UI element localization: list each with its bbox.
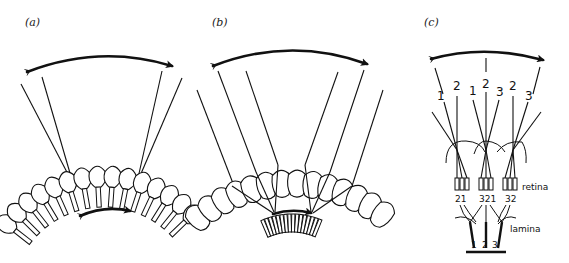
svg-text:3: 3 xyxy=(525,89,533,103)
image-arrow xyxy=(80,209,130,216)
visual-field-arrow xyxy=(213,50,367,66)
panel-a: (a) xyxy=(0,16,206,249)
panel-a-label: (a) xyxy=(25,16,40,29)
retina-label: retina xyxy=(522,182,548,192)
rays xyxy=(21,71,182,180)
svg-text:1: 1 xyxy=(471,240,477,250)
panel-c-label: (c) xyxy=(424,16,439,29)
svg-text:2: 2 xyxy=(482,240,488,250)
ray-numbers: 1 2 1 2 3 2 3 xyxy=(437,77,533,103)
panel-c: (c) 1 2 1 2 3 2 xyxy=(424,16,548,252)
panel-b-label: (b) xyxy=(212,16,228,29)
compound-eye-figure: (a) xyxy=(0,0,569,263)
lamina-numbers: 1 2 3 xyxy=(471,240,498,250)
svg-text:32: 32 xyxy=(505,194,516,204)
svg-text:1: 1 xyxy=(437,89,445,103)
visual-field-arrow xyxy=(431,52,543,60)
rays xyxy=(197,70,383,186)
svg-text:2: 2 xyxy=(509,79,517,93)
panel-b: (b) xyxy=(182,16,398,237)
svg-text:321: 321 xyxy=(479,194,496,204)
svg-text:21: 21 xyxy=(455,194,466,204)
lamina-label: lamina xyxy=(510,224,541,234)
ommatidia-row xyxy=(0,166,206,250)
svg-text:3: 3 xyxy=(492,240,498,250)
svg-text:2: 2 xyxy=(482,77,490,91)
svg-text:2: 2 xyxy=(453,79,461,93)
svg-text:1: 1 xyxy=(469,84,477,98)
visual-field-arrow xyxy=(27,56,172,72)
receptor-array xyxy=(261,214,322,237)
svg-text:3: 3 xyxy=(496,85,504,99)
receptor-group-numbers: 21 321 32 xyxy=(455,194,516,204)
receptor-bundles xyxy=(455,150,517,190)
